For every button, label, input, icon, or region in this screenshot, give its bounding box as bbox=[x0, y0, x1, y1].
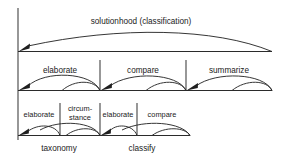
label-elaborate-level3-b: elaborate bbox=[103, 110, 134, 119]
level-3-arrowhead-elaborate-2 bbox=[101, 129, 112, 136]
label-circumstance-line1: circum- bbox=[68, 104, 93, 113]
level-1-relation-arc bbox=[28, 32, 272, 51]
level-1-arrowhead bbox=[19, 44, 31, 52]
level-2-arc-compare bbox=[110, 76, 186, 91]
label-leaf-taxonomy: taxonomy bbox=[41, 144, 77, 153]
level-2-arc-summarize bbox=[196, 76, 272, 91]
level-1-group bbox=[18, 32, 272, 51]
level-2-arrowhead-compare bbox=[101, 83, 113, 91]
level-3-arrowhead-elaborate-1 bbox=[19, 129, 30, 136]
level-3-arc-elaborate-2 bbox=[109, 126, 137, 136]
label-summarize-level2: summarize bbox=[209, 66, 249, 75]
level-2-arrowhead-summarize bbox=[187, 83, 199, 91]
rst-diagram-canvas: solutionhood (classification) elaborate … bbox=[0, 0, 283, 160]
rst-diagram-svg: solutionhood (classification) elaborate … bbox=[0, 0, 283, 160]
label-leaf-classify: classify bbox=[129, 144, 157, 153]
label-compare-level3: compare bbox=[148, 110, 177, 119]
level-2-arrowhead-elaborate bbox=[19, 83, 31, 91]
label-elaborate-level2: elaborate bbox=[43, 66, 78, 75]
label-solutionhood: solutionhood (classification) bbox=[91, 17, 192, 26]
label-elaborate-level3-a: elaborate bbox=[24, 110, 55, 119]
level-2-group bbox=[18, 60, 272, 91]
label-circumstance-line2: stance bbox=[69, 113, 91, 122]
level-3-arc-elaborate-1 bbox=[27, 126, 60, 136]
level-3-group bbox=[18, 103, 190, 136]
label-compare-level2: compare bbox=[127, 66, 159, 75]
